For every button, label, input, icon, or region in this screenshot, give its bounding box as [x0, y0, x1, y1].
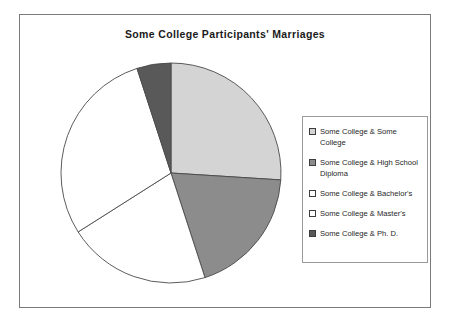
- legend-item-label: Some College & Ph. D.: [320, 228, 398, 239]
- legend-swatch-icon: [309, 230, 316, 237]
- legend-item-bachelors[interactable]: Some College & Bachelor's: [309, 188, 423, 199]
- legend-item-some-college[interactable]: Some College & Some College: [309, 126, 423, 148]
- legend-item-phd[interactable]: Some College & Ph. D.: [309, 228, 423, 239]
- chart-frame: Some College Participants' Marriages Som…: [19, 14, 431, 308]
- legend-item-label: Some College & Some College: [320, 126, 423, 148]
- legend-swatch-icon: [309, 190, 316, 197]
- legend-swatch-icon: [309, 210, 316, 217]
- pie-slice[interactable]: [171, 63, 281, 180]
- page-title: Some College Participants' Marriages: [20, 28, 430, 40]
- legend-item-high-school-diploma[interactable]: Some College & High School Diploma: [309, 157, 423, 179]
- chart-legend: Some College & Some College Some College…: [302, 116, 428, 263]
- legend-item-label: Some College & High School Diploma: [320, 157, 418, 179]
- pie-chart: [51, 53, 291, 293]
- legend-item-label: Some College & Bachelor's: [320, 188, 412, 199]
- pie-chart-svg: [51, 53, 291, 293]
- legend-swatch-icon: [309, 128, 316, 135]
- legend-item-masters[interactable]: Some College & Master's: [309, 208, 423, 219]
- legend-swatch-icon: [309, 159, 316, 166]
- legend-item-label: Some College & Master's: [320, 208, 405, 219]
- pie-slice-group: [61, 63, 281, 283]
